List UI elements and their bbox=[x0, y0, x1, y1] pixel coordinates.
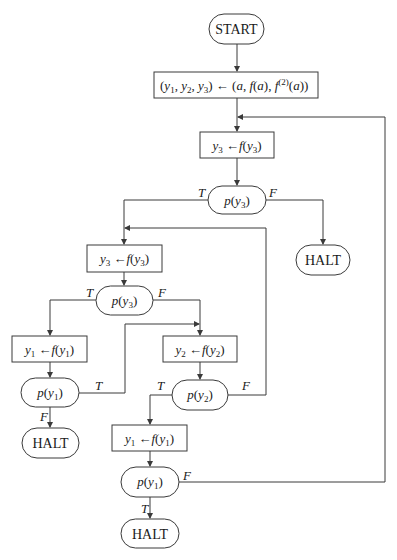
node-halt1: HALT bbox=[296, 245, 350, 275]
node-start: START bbox=[209, 14, 264, 44]
label-test3-false: F bbox=[39, 409, 49, 424]
label-test5-true: T bbox=[141, 501, 149, 516]
test1-label: p(y3) bbox=[223, 193, 249, 210]
test4-label: p(y2) bbox=[186, 387, 212, 404]
node-halt2: HALT bbox=[22, 428, 79, 458]
label-test3-true: T bbox=[95, 378, 103, 393]
edge-test1-true bbox=[124, 200, 208, 244]
test2-label: p(y3) bbox=[111, 293, 137, 310]
label-test1-true: T bbox=[198, 185, 206, 200]
label-test2-true: T bbox=[86, 285, 94, 300]
node-test5: p(y1) bbox=[121, 467, 179, 497]
node-step3: y1 ←f(y1) bbox=[12, 336, 87, 362]
label-test1-false: F bbox=[268, 185, 278, 200]
halt3-label: HALT bbox=[132, 527, 168, 542]
flowchart: T F T F T F T F F T START (y1, y2, y3) ←… bbox=[0, 0, 397, 560]
node-test4: p(y2) bbox=[172, 380, 228, 410]
edge-test1-false bbox=[266, 200, 323, 244]
node-step2: y3 ←f(y3) bbox=[87, 245, 162, 272]
node-step4: y2 ←f(y2) bbox=[163, 336, 237, 362]
halt2-label: HALT bbox=[32, 436, 68, 451]
halt1-label: HALT bbox=[305, 253, 341, 268]
label-test4-true: T bbox=[157, 378, 165, 393]
node-test2: p(y3) bbox=[96, 286, 153, 315]
test3-label: p(y1) bbox=[36, 385, 62, 402]
edge-test4-true bbox=[150, 395, 172, 424]
edge-test2-false bbox=[153, 300, 200, 335]
node-test1: p(y3) bbox=[208, 186, 266, 214]
label-test5-false: F bbox=[182, 468, 192, 483]
edge-test2-true bbox=[50, 300, 96, 335]
test5-label: p(y1) bbox=[136, 474, 162, 491]
node-halt3: HALT bbox=[121, 519, 179, 548]
edge-test5-false-loop bbox=[179, 117, 385, 482]
node-init: (y1, y2, y3) ← (a, f(a), f(2)(a)) bbox=[154, 72, 318, 98]
node-test3: p(y1) bbox=[21, 378, 79, 407]
node-step1: y3 ←f(y3) bbox=[200, 132, 274, 158]
label-test4-false: F bbox=[241, 378, 251, 393]
connectors bbox=[50, 44, 385, 518]
label-test2-false: F bbox=[157, 285, 167, 300]
start-label: START bbox=[215, 22, 258, 37]
node-step5: y1 ←f(y1) bbox=[112, 425, 187, 451]
